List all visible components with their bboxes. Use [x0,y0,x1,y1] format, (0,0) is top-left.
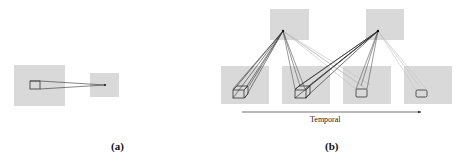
panel-b: Temporal (b) [221,9,452,153]
target-point-1 [282,30,284,32]
feature-map-large [14,65,65,106]
caption-a: (a) [111,140,124,153]
frame-1 [221,66,269,104]
diagram-canvas: (a) [0,0,465,162]
frame-4 [404,66,452,104]
target-point [104,84,106,86]
panel-a: (a) [14,65,124,153]
caption-b: (b) [325,140,339,153]
frame-3 [343,66,391,104]
temporal-label: Temporal [310,115,341,124]
target-point-2 [377,30,379,32]
